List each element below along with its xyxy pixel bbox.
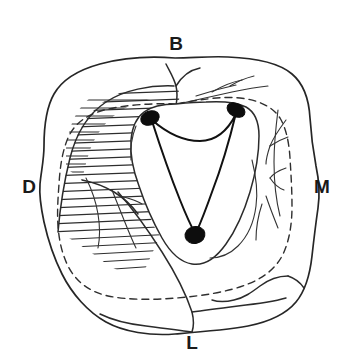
label-mesial: M: [314, 176, 330, 197]
tooth-occlusal-figure: B D M L: [0, 0, 354, 362]
label-distal: D: [22, 176, 36, 197]
tooth-diagram-svg: B D M L: [0, 0, 354, 362]
label-lingual: L: [186, 332, 198, 353]
label-buccal: B: [169, 33, 183, 54]
